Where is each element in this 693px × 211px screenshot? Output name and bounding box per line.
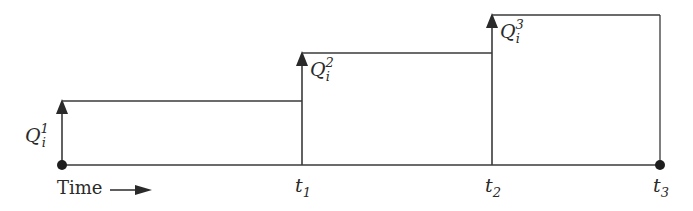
origin-dot-icon bbox=[57, 160, 67, 170]
tick-t2: t2 bbox=[485, 174, 501, 200]
step-q1 bbox=[56, 99, 302, 165]
time-axis-label: Time bbox=[57, 177, 102, 198]
q2-label: Q2i bbox=[310, 55, 334, 84]
step-diagram: Q1i Q2i Q3i Time t1 t2 t3 bbox=[0, 0, 693, 211]
q3-label: Q3i bbox=[500, 17, 524, 46]
time-arrowhead-icon bbox=[135, 185, 152, 195]
q1-label: Q1i bbox=[25, 121, 49, 150]
end-dot-icon bbox=[655, 160, 665, 170]
tick-t3: t3 bbox=[653, 174, 669, 200]
tick-t1: t1 bbox=[295, 174, 311, 200]
